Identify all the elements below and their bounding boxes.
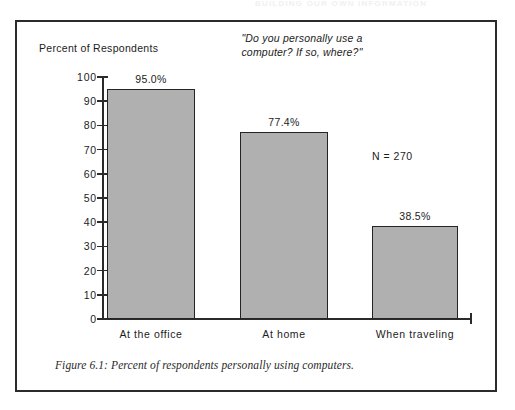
y-axis-tick-label: 30 bbox=[63, 240, 97, 252]
y-axis-tick-label-wrap: 70 bbox=[55, 144, 97, 156]
chart-title: "Do you personally use a computer? If so… bbox=[202, 31, 402, 59]
x-axis-category-label: When traveling bbox=[354, 328, 476, 340]
y-axis-tick-label: 80 bbox=[63, 119, 97, 131]
bar-when-traveling bbox=[372, 226, 458, 319]
y-axis-tick-label-wrap: 10 bbox=[55, 289, 97, 301]
y-axis-tick-label: 90 bbox=[63, 95, 97, 107]
y-axis-tick-label: 40 bbox=[63, 216, 97, 228]
y-axis-title: Percent of Respondents bbox=[39, 42, 158, 54]
y-axis-tick-label: 50 bbox=[63, 192, 97, 204]
bar-value-label: 38.5% bbox=[372, 210, 458, 222]
y-axis-tick-label: 70 bbox=[63, 144, 97, 156]
page-running-header: BUILDING OUR OWN INFORMATION bbox=[255, 0, 427, 8]
y-axis-tick-label: 0 bbox=[63, 313, 97, 325]
bar-value-label: 77.4% bbox=[240, 116, 328, 128]
chart-plot-area: Percent of Respondents "Do you personall… bbox=[17, 22, 495, 390]
y-axis-tick-label-wrap: 50 bbox=[55, 192, 97, 204]
bar-value-label: 95.0% bbox=[107, 73, 195, 85]
y-axis-tick-label-wrap: 90 bbox=[55, 95, 97, 107]
chart-title-line-1: "Do you personally use a bbox=[202, 31, 402, 45]
y-axis-tick-label: 20 bbox=[63, 265, 97, 277]
y-axis-tick-label-wrap: 20 bbox=[55, 265, 97, 277]
chart-title-line-2: computer? If so, where?" bbox=[202, 45, 402, 59]
y-axis-tick-label-wrap: 80 bbox=[55, 119, 97, 131]
y-axis-tick-label: 10 bbox=[63, 289, 97, 301]
bar-at-the-office bbox=[107, 89, 195, 319]
y-axis-tick-label: 100 bbox=[63, 71, 97, 83]
figure-frame: Percent of Respondents "Do you personall… bbox=[15, 20, 497, 392]
y-axis-tick-label-wrap: 60 bbox=[55, 168, 97, 180]
x-axis-end-cap bbox=[470, 313, 472, 324]
y-axis-tick-label-wrap: 30 bbox=[55, 240, 97, 252]
y-axis-tick-label: 60 bbox=[63, 168, 97, 180]
y-axis-tick-label-wrap: 40 bbox=[55, 216, 97, 228]
y-axis-tick-label-wrap: 100 bbox=[55, 71, 97, 83]
sample-size-annotation: N = 270 bbox=[372, 150, 413, 162]
figure-caption: Figure 6.1: Percent of respondents perso… bbox=[55, 359, 354, 371]
y-axis-tick-label-wrap: 0 bbox=[55, 313, 97, 325]
bar-at-home bbox=[240, 132, 328, 319]
x-axis-category-label: At home bbox=[222, 328, 346, 340]
x-axis-category-label: At the office bbox=[89, 328, 213, 340]
